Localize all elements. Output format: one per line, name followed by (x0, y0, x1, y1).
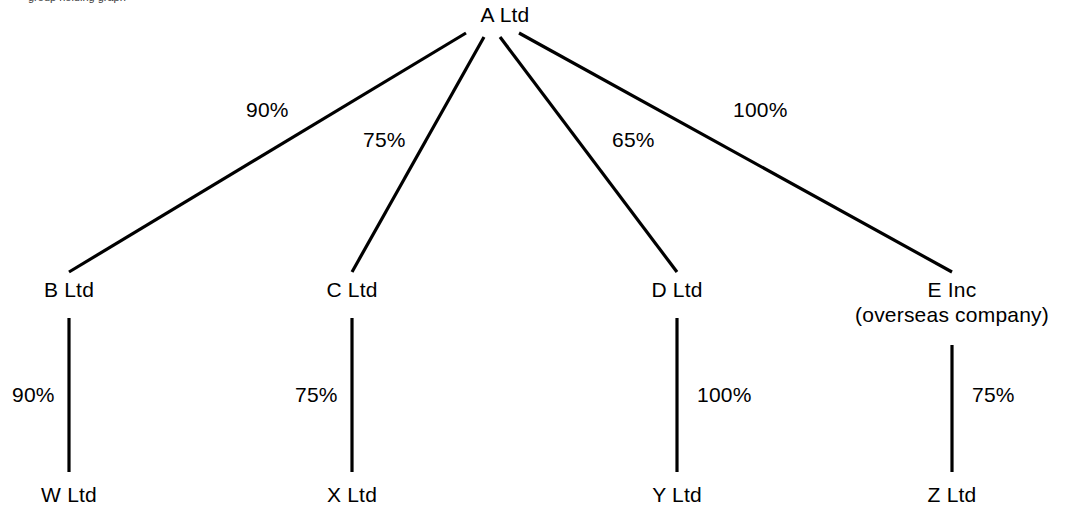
node-z-ltd[interactable]: Z Ltd (928, 482, 977, 507)
edge-label-e-to-z: 75% (972, 383, 1015, 407)
node-a-ltd[interactable]: A Ltd (481, 2, 530, 27)
node-w-ltd[interactable]: W Ltd (41, 482, 97, 507)
edge-a-to-c (352, 37, 484, 272)
edge-a-to-e (519, 33, 952, 272)
edge-label-c-to-x: 75% (295, 383, 338, 407)
node-e-inc[interactable]: E Inc (overseas company) (855, 277, 1049, 327)
edges-layer (0, 0, 1079, 530)
node-b-ltd[interactable]: B Ltd (44, 277, 94, 302)
edge-a-to-b (69, 33, 466, 272)
node-d-ltd[interactable]: D Ltd (651, 277, 702, 302)
node-e-inc-title: E Inc (928, 278, 977, 301)
edge-label-a-to-d: 65% (612, 128, 655, 152)
edge-label-d-to-y: 100% (697, 383, 752, 407)
node-y-ltd[interactable]: Y Ltd (652, 482, 702, 507)
edge-label-a-to-c: 75% (363, 128, 406, 152)
node-e-inc-subtitle: (overseas company) (855, 302, 1049, 327)
node-x-ltd[interactable]: X Ltd (327, 482, 377, 507)
group-structure-diagram: group holding graph A Ltd B Ltd C Ltd D … (0, 0, 1079, 530)
edge-label-b-to-w: 90% (12, 383, 55, 407)
node-c-ltd[interactable]: C Ltd (326, 277, 377, 302)
edge-label-a-to-e: 100% (733, 98, 788, 122)
edge-label-a-to-b: 90% (246, 98, 289, 122)
